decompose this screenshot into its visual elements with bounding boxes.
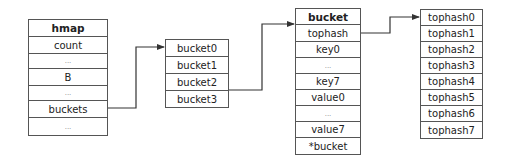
arrow-buckets-to-bucket0 bbox=[108, 47, 164, 108]
connector-arrows bbox=[0, 0, 508, 162]
arrow-tophash-to-tophash0 bbox=[361, 17, 419, 33]
arrow-bucket2-to-bucket bbox=[229, 24, 294, 90]
